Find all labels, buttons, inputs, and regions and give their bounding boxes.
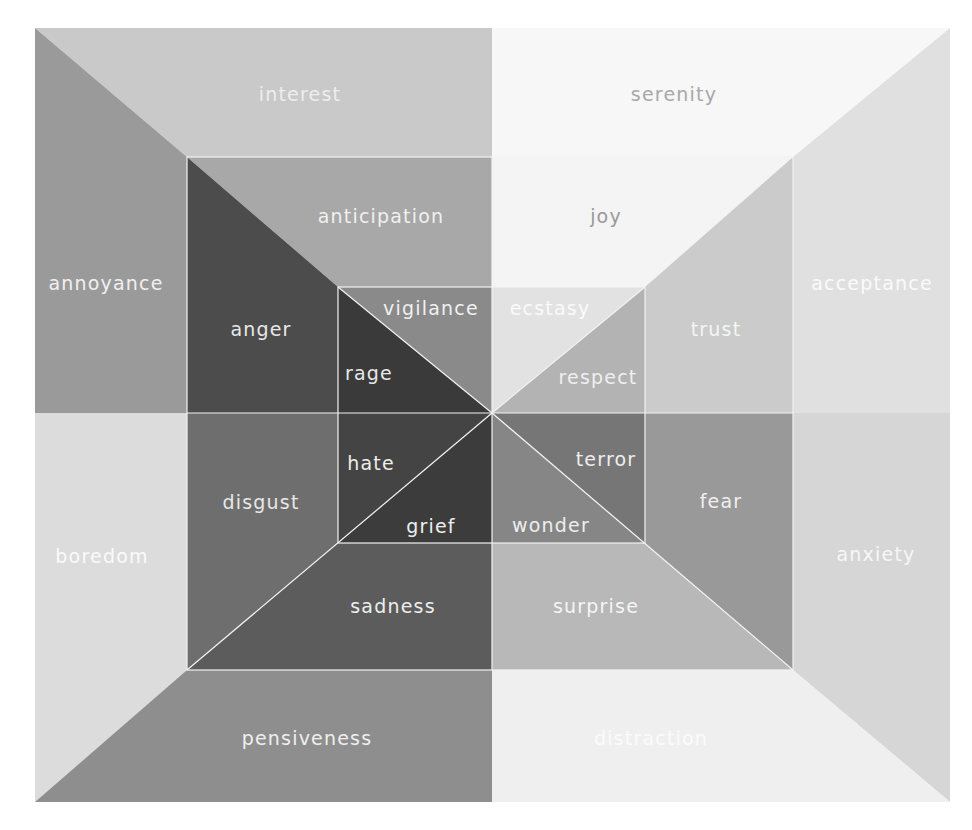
label-acceptance: acceptance	[811, 272, 933, 294]
label-fear: fear	[700, 490, 743, 512]
label-anger: anger	[230, 318, 291, 340]
label-grief: grief	[406, 515, 456, 537]
label-interest: interest	[259, 83, 342, 105]
label-disgust: disgust	[222, 491, 299, 513]
label-surprise: surprise	[553, 595, 639, 617]
label-anticipation: anticipation	[318, 205, 445, 227]
label-pensiveness: pensiveness	[242, 727, 373, 749]
label-annoyance: annoyance	[48, 272, 163, 294]
label-vigilance: vigilance	[383, 297, 479, 319]
label-distraction: distraction	[594, 727, 708, 749]
label-ecstasy: ecstasy	[510, 297, 591, 319]
label-serenity: serenity	[631, 83, 717, 105]
label-hate: hate	[347, 452, 395, 474]
label-respect: respect	[558, 366, 637, 388]
label-joy: joy	[589, 205, 622, 227]
label-sadness: sadness	[350, 595, 436, 617]
emotion-diagram: interestannoyanceanticipationangervigila…	[0, 0, 972, 830]
label-rage: rage	[345, 362, 393, 384]
label-anxiety: anxiety	[837, 543, 916, 565]
label-trust: trust	[691, 318, 742, 340]
label-boredom: boredom	[55, 545, 148, 567]
label-wonder: wonder	[512, 514, 590, 536]
label-terror: terror	[576, 448, 637, 470]
